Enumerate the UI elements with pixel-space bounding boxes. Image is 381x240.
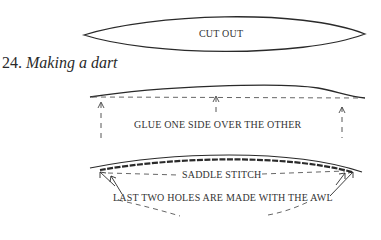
- figure-number: 24.: [2, 54, 22, 71]
- glue-arrows: [98, 96, 345, 138]
- cut-out-label: CUT OUT: [199, 28, 243, 39]
- figure-caption: 24. Making a dart: [2, 54, 118, 72]
- awl-holes-label: LAST TWO HOLES ARE MADE WITH THE AWL: [113, 192, 333, 203]
- glued-edge-curve: [90, 85, 365, 98]
- saddle-stitch-label: SADDLE STITCH: [182, 169, 262, 180]
- glue-label: GLUE ONE SIDE OVER THE OTHER: [134, 119, 301, 130]
- glue-overlap-dashed-line: [92, 97, 362, 98]
- figure-title: Making a dart: [26, 54, 118, 71]
